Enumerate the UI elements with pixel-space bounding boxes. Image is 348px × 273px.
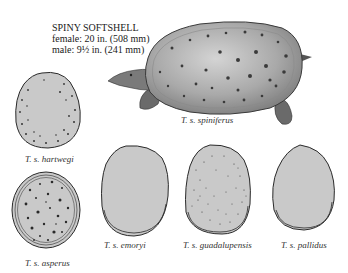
shell-asperus — [12, 172, 80, 248]
label-asperus: T. s. asperus — [25, 258, 70, 268]
label-emoryi: T. s. emoryi — [104, 240, 146, 250]
shell-emoryi — [102, 146, 169, 236]
shell-pallidus — [273, 145, 335, 230]
turtle-carapace — [145, 22, 302, 115]
label-pallidus: T. s. pallidus — [281, 240, 327, 250]
label-spiniferus: T. s. spiniferus — [181, 115, 233, 125]
illustration-canvas — [0, 0, 348, 273]
turtle-eye — [130, 74, 132, 76]
label-guadalupensis: T. s. guadalupensis — [183, 240, 252, 250]
shell-guadalupensis — [186, 145, 251, 234]
label-hartwegi: T. s. hartwegi — [25, 154, 74, 164]
shell-hartwegi — [16, 72, 81, 148]
turtle-spiniferus-illustration — [108, 22, 312, 125]
